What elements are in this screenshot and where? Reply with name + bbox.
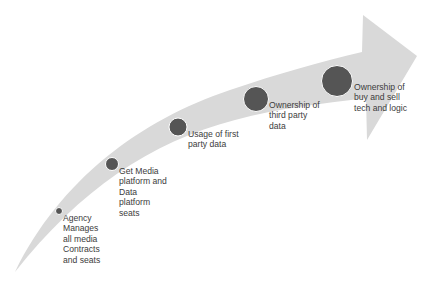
milestone-label-third-party-data: Ownership of third party data — [269, 100, 320, 131]
milestone-circle-icon — [56, 208, 63, 215]
milestone-circle-icon — [106, 158, 119, 171]
milestone-circle-icon — [244, 87, 269, 112]
milestone-label-buy-sell-tech: Ownership of buy and sell tech and logic — [354, 82, 407, 113]
milestone-circle-icon — [322, 66, 353, 97]
milestone-label-media-platform: Get Media platform and Data platform sea… — [119, 166, 167, 218]
milestone-circle-icon — [169, 118, 187, 136]
milestone-label-first-party-data: Usage of first party data — [188, 129, 239, 150]
milestone-label-agency: Agency Manages all media Contracts and s… — [63, 213, 100, 265]
